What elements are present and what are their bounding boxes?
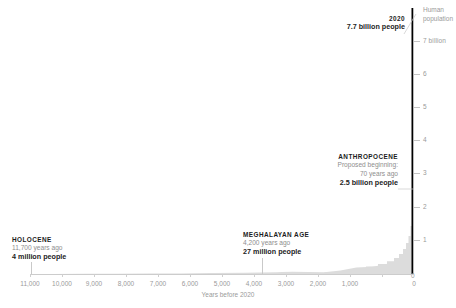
x-tick-7000	[158, 274, 159, 277]
present-population-label: 7.7 billion people	[260, 22, 405, 31]
x-tick-label-5000: 5,000	[214, 280, 230, 287]
y-tick-2	[414, 207, 420, 208]
holocene-when-label: 11,700 years ago	[12, 243, 66, 252]
meghalayan-population-label: 27 million people	[243, 247, 309, 256]
holocene-population-label: 4 million people	[12, 252, 66, 261]
plot-area	[30, 8, 414, 274]
x-tick-10000	[62, 274, 63, 277]
x-tick-4000	[254, 274, 255, 277]
y-tick-label-5: 5	[423, 103, 427, 110]
x-tick-label-1000: 1,000	[342, 280, 358, 287]
x-tick-5000	[222, 274, 223, 277]
anthropocene-era-label: ANTHROPOCENE	[258, 153, 398, 160]
x-tick-1000	[350, 274, 351, 277]
x-tick-label-2000: 2,000	[310, 280, 326, 287]
annotation-meghalayan: MEGHALAYAN AGE 4,200 years ago 27 millio…	[243, 231, 309, 256]
y-tick-label-1: 1	[423, 236, 427, 243]
anthropocene-leader-line	[398, 188, 416, 192]
holocene-era-label: HOLOCENE	[12, 236, 66, 243]
x-tick-3000	[286, 274, 287, 277]
x-tick-0	[382, 274, 383, 277]
anthropocene-when-label: 70 years ago	[258, 169, 398, 178]
y-tick-label-7: 7 billion	[423, 37, 446, 44]
meghalayan-when-label: 4,200 years ago	[243, 238, 309, 247]
annotation-holocene: HOLOCENE 11,700 years ago 4 million peop…	[12, 236, 66, 261]
y-tick-label-6: 6	[423, 70, 427, 77]
annotation-present: 2020 7.7 billion people	[260, 15, 405, 31]
x-tick-2000	[318, 274, 319, 277]
x-tick-label-11000: 11,000	[20, 280, 39, 287]
anthropocene-proposed-label: Proposed beginning:	[258, 160, 398, 169]
x-tick-label-6000: 6,000	[182, 280, 198, 287]
population-area-chart: Human population 7 billion 6 5 4 3 2 1 0…	[0, 0, 456, 308]
x-tick-9000	[94, 274, 95, 277]
marker-tick-meghalayan	[262, 258, 263, 274]
x-tick-label-9000: 9,000	[86, 280, 102, 287]
meghalayan-era-label: MEGHALAYAN AGE	[243, 231, 309, 238]
present-leader-line	[404, 14, 418, 36]
y-axis-line	[413, 8, 414, 274]
y-tick-1	[414, 240, 420, 241]
y-tick-6	[414, 74, 420, 75]
population-step-detail	[324, 198, 414, 274]
x-axis-title: Years before 2020	[0, 291, 456, 298]
x-tick-label-3000: 3,000	[278, 280, 294, 287]
y-tick-7	[414, 41, 420, 42]
y-axis-title-text: Human population	[423, 6, 453, 22]
marker-tick-holocene	[31, 262, 32, 274]
x-tick-label-10000: 10,000	[52, 280, 72, 287]
present-year-label: 2020	[260, 15, 405, 22]
x-tick-label-4000: 4,000	[246, 280, 262, 287]
y-tick-label-4: 4	[423, 136, 427, 143]
annotation-anthropocene: ANTHROPOCENE Proposed beginning: 70 year…	[258, 153, 398, 187]
y-tick-label-2: 2	[423, 203, 427, 210]
x-tick-11000	[30, 274, 31, 277]
x-tick-8000	[126, 274, 127, 277]
y-tick-4	[414, 140, 420, 141]
anthropocene-population-label: 2.5 billion people	[258, 178, 398, 187]
y-tick-5	[414, 107, 420, 108]
y-tick-3	[414, 173, 420, 174]
x-tick-6000	[190, 274, 191, 277]
x-tick-label-8000: 8,000	[118, 280, 134, 287]
x-tick-label-7000: 7,000	[150, 280, 166, 287]
y-axis-title: Human population	[423, 6, 456, 23]
x-tick-label-0: 0	[412, 280, 416, 287]
y-tick-label-3: 3	[423, 169, 427, 176]
area-series-svg	[30, 8, 414, 274]
